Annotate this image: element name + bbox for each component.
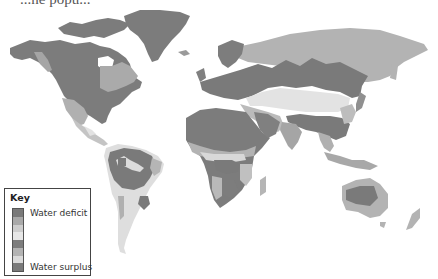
key-color-scale — [12, 208, 24, 272]
key-band-2 — [13, 217, 23, 225]
oceania — [324, 152, 420, 230]
key-band-4 — [13, 232, 23, 240]
south-america — [104, 144, 164, 254]
africa — [186, 108, 280, 208]
key-band-8 — [13, 263, 23, 271]
key-band-5 — [13, 240, 23, 248]
key-title: Key — [10, 192, 30, 203]
map-key: Key Water deficit Water surplus — [4, 188, 91, 276]
key-band-3 — [13, 225, 23, 233]
key-label-surplus: Water surplus — [30, 262, 92, 272]
key-label-deficit: Water deficit — [30, 208, 87, 218]
key-band-1 — [13, 209, 23, 217]
key-band-7 — [13, 256, 23, 264]
north-america — [10, 10, 190, 146]
key-band-6 — [13, 248, 23, 256]
